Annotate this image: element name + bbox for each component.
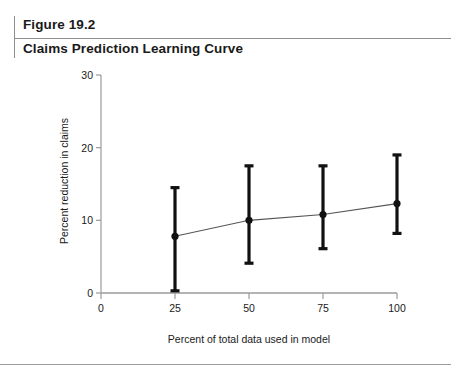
data-point-marker: [245, 217, 252, 224]
error-bar: [393, 155, 402, 233]
y-axis-tick-label: 0: [69, 287, 93, 299]
x-axis-tick-label: 75: [317, 302, 329, 314]
error-bar: [319, 166, 328, 249]
x-axis-title: Percent of total data used in model: [168, 333, 330, 345]
data-point-marker: [171, 233, 178, 240]
error-bar: [245, 166, 254, 263]
x-axis-tick-label: 100: [388, 302, 406, 314]
chart-plot-area: 01020300255075100Percent of total data u…: [0, 0, 451, 373]
footer-rule: [0, 364, 451, 365]
y-axis-tick-label: 10: [69, 214, 93, 226]
y-axis-title: Percent reduction in claims: [58, 118, 70, 244]
data-point-marker: [319, 211, 326, 218]
x-axis-tick-label: 25: [169, 302, 181, 314]
data-point-marker: [393, 200, 400, 207]
y-axis-tick-label: 30: [69, 69, 93, 81]
x-axis-tick-label: 50: [243, 302, 255, 314]
x-axis-tick-label: 0: [98, 302, 104, 314]
figure-panel: Figure 19.2 Claims Prediction Learning C…: [0, 0, 451, 373]
data-series-line: [175, 204, 397, 237]
y-axis-tick-label: 20: [69, 142, 93, 154]
